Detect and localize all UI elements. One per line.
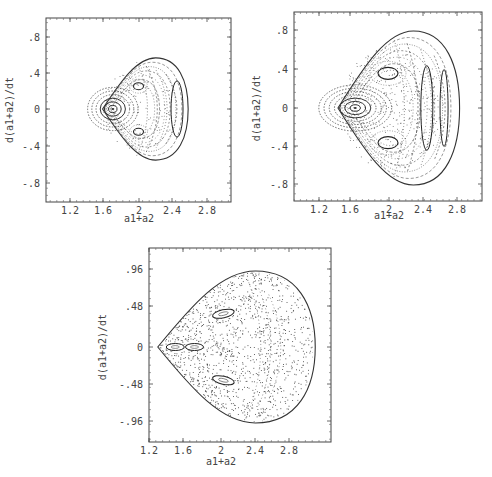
- panel-1: 1.21.622.42.8.8.40-.4-.8a1+a2d(a1+a2)/dt: [4, 18, 231, 224]
- side-island: [378, 67, 398, 79]
- y-tick-label: -.48: [119, 379, 143, 390]
- x-tick-label: 2.4: [163, 205, 181, 216]
- y-tick-label: 0: [282, 103, 288, 114]
- y-tick-label: -.8: [270, 179, 288, 190]
- x-tick-label: 1.6: [341, 204, 359, 215]
- energy-boundary: [103, 58, 189, 160]
- y-tick-label: -.96: [119, 416, 143, 427]
- y-axis-label: d(a1+a2)/dt: [251, 75, 262, 141]
- side-island: [134, 128, 144, 135]
- plot-frame: [46, 18, 231, 202]
- y-tick-label: -.4: [22, 141, 40, 152]
- y-tick-label: .96: [125, 264, 143, 275]
- plot-frame: [294, 12, 482, 201]
- crescent-island: [440, 70, 448, 147]
- y-tick-label: 0: [34, 104, 40, 115]
- x-tick-label: 1.2: [310, 204, 328, 215]
- x-tick-label: 1.6: [94, 205, 112, 216]
- y-tick-label: .4: [28, 68, 40, 79]
- island: [212, 308, 235, 320]
- x-tick-label: 2.8: [280, 445, 298, 456]
- x-tick-label: 1.2: [140, 445, 158, 456]
- x-axis-label: a1+a2: [206, 456, 236, 467]
- side-island: [134, 83, 144, 90]
- y-tick-label: -.8: [22, 178, 40, 189]
- x-tick-label: 1.2: [61, 205, 79, 216]
- y-tick-label: 0: [137, 342, 143, 353]
- x-axis-label: a1+a2: [124, 213, 154, 224]
- x-tick-label: 2.4: [414, 204, 432, 215]
- y-tick-label: .8: [28, 32, 40, 43]
- y-tick-label: .48: [125, 301, 143, 312]
- y-tick-label: -.4: [270, 141, 288, 152]
- x-tick-label: 2.8: [448, 204, 466, 215]
- x-tick-label: 1.6: [174, 445, 192, 456]
- panel-3: 1.21.622.42.8.96.480-.48-.96a1+a2d(a1+a2…: [97, 248, 331, 467]
- y-axis-label: d(a1+a2)/dt: [4, 77, 15, 143]
- y-axis-label: d(a1+a2)/dt: [97, 314, 108, 380]
- x-tick-label: 2.8: [198, 205, 216, 216]
- y-tick-label: .8: [276, 25, 288, 36]
- island: [212, 374, 235, 386]
- x-tick-label: 2.4: [246, 445, 264, 456]
- x-axis-label: a1+a2: [374, 210, 404, 221]
- y-tick-label: .4: [276, 64, 288, 75]
- island: [186, 344, 204, 351]
- crescent-island: [421, 66, 433, 151]
- island: [166, 344, 184, 351]
- x-tick-label: 2: [218, 445, 224, 456]
- panel-2: 1.21.622.42.8.8.40-.4-.8a1+a2d(a1+a2)/dt: [251, 12, 482, 221]
- figure: 1.21.622.42.8.8.40-.4-.8a1+a2d(a1+a2)/dt…: [0, 0, 492, 477]
